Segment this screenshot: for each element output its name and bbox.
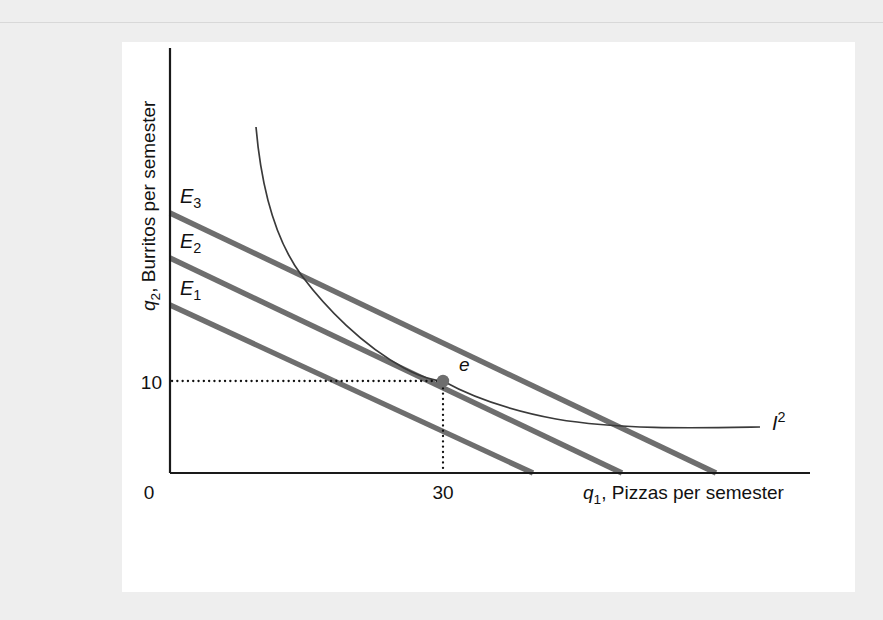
x-tick-label-30: 30 [432,482,453,503]
budget-line-label-e2: E2 [180,230,201,256]
indifference-curve-chart: e E3 E2 E1 I2 10 30 0 q1, Pizzas per sem… [0,0,883,620]
indifference-curve-label: I2 [772,409,786,434]
budget-line-label-e3: E3 [180,185,201,211]
equilibrium-point-marker [437,375,449,387]
equilibrium-point-label: e [459,354,470,375]
y-tick-label-10: 10 [141,372,162,393]
budget-line-label-e1: E1 [180,277,201,303]
y-axis-title: q2, Burritos per semester [138,100,163,311]
budget-line-e2 [170,258,622,473]
origin-label: 0 [144,482,155,503]
x-axis-title: q1, Pizzas per semester [583,482,785,507]
